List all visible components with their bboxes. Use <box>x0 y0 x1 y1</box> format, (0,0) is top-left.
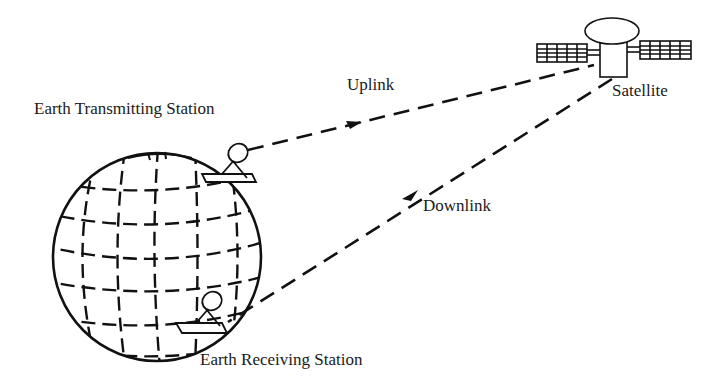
receiving-dish-icon <box>176 288 227 333</box>
uplink-path <box>248 65 594 150</box>
transmitting-dish-icon <box>202 140 256 182</box>
downlink-label: Downlink <box>423 197 491 214</box>
satellite-link-diagram <box>0 0 724 389</box>
satellite-label: Satellite <box>612 82 668 99</box>
uplink-arrow-icon <box>346 121 362 129</box>
downlink-arrow-icon <box>402 190 418 201</box>
earth-transmitting-station-label: Earth Transmitting Station <box>34 100 214 117</box>
downlink-path <box>228 79 612 322</box>
earth-receiving-station-label: Earth Receiving Station <box>200 351 362 368</box>
satellite-icon <box>537 18 691 77</box>
uplink-label: Uplink <box>347 76 394 93</box>
